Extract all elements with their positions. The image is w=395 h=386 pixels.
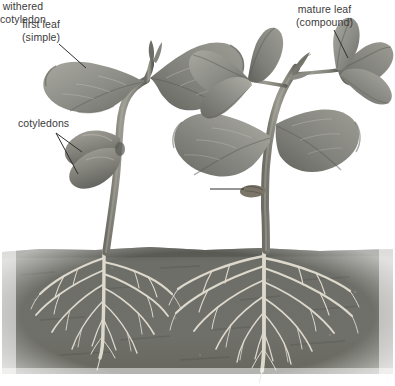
label-cotyledons: cotyledons	[18, 117, 69, 130]
right-plant-lower-leaf-right	[276, 110, 360, 173]
right-plant-compound-leaf-right	[333, 18, 393, 105]
right-plant-compound-leaf-left	[189, 28, 283, 119]
right-plant-mature-seedling	[173, 18, 394, 250]
soil-edge-fade	[0, 245, 395, 386]
label-withered-cotyledon: withered cotyledon	[0, 0, 46, 25]
left-plant-apical-bud	[149, 40, 162, 63]
label-mature-leaf: mature leaf (compound)	[296, 3, 353, 28]
diagram-canvas	[0, 0, 395, 386]
right-plant-lower-leaf-left	[173, 113, 270, 176]
left-plant-first-leaf-left	[43, 62, 144, 113]
plant-development-diagram: first leaf (simple) cotyledons mature le…	[0, 0, 395, 386]
